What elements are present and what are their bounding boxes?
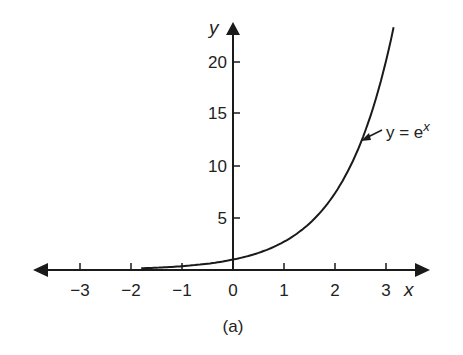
annotation-text-exponent: x (422, 119, 430, 134)
y-tick-label: 20 (208, 53, 227, 72)
x-axis-right-arrow-icon (415, 263, 430, 277)
x-tick-label: −2 (121, 281, 140, 300)
exp-curve (141, 27, 393, 268)
x-axis-left-arrow-icon (33, 263, 48, 277)
x-tick-label: −3 (70, 281, 89, 300)
x-axis-label: x (403, 279, 415, 300)
y-axis-up-arrow-icon (226, 22, 240, 35)
x-tick-label: 3 (381, 281, 390, 300)
y-tick-label: 5 (218, 209, 227, 228)
exponential-chart: −3−2−10123 5101520 x y y = ex (a) (0, 0, 463, 355)
curve-annotation: y = ex (361, 119, 430, 142)
x-tick-label: 2 (330, 281, 339, 300)
annotation-text-base: y = e (386, 123, 423, 142)
x-tick-label: −1 (172, 281, 191, 300)
annotation-text: y = ex (386, 119, 430, 142)
y-tick-label: 10 (208, 157, 227, 176)
x-tick-label: 1 (279, 281, 288, 300)
axes (46, 30, 418, 270)
x-ticks: −3−2−10123 (70, 263, 390, 300)
y-ticks: 5101520 (208, 53, 240, 228)
x-tick-label: 0 (228, 281, 237, 300)
figure-caption: (a) (223, 317, 244, 336)
y-axis-label: y (207, 17, 220, 38)
y-tick-label: 15 (208, 104, 227, 123)
